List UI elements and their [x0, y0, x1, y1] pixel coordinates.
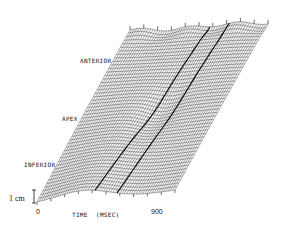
apex-label: APEX	[62, 115, 78, 122]
x-tick-900: 900	[151, 208, 163, 215]
wireframe-mesh	[37, 18, 268, 205]
scale-bar-label: 1 cm	[9, 194, 25, 203]
anterior-label: ANTERIOR	[80, 57, 111, 64]
x-tick-0: 0	[36, 208, 40, 215]
x-axis-unit: (MSEC)	[96, 211, 119, 218]
scale-bar	[32, 190, 36, 203]
surface-plot	[0, 0, 283, 230]
inferior-label: INFERIOR	[24, 161, 55, 168]
x-axis-title: TIME	[72, 211, 88, 218]
